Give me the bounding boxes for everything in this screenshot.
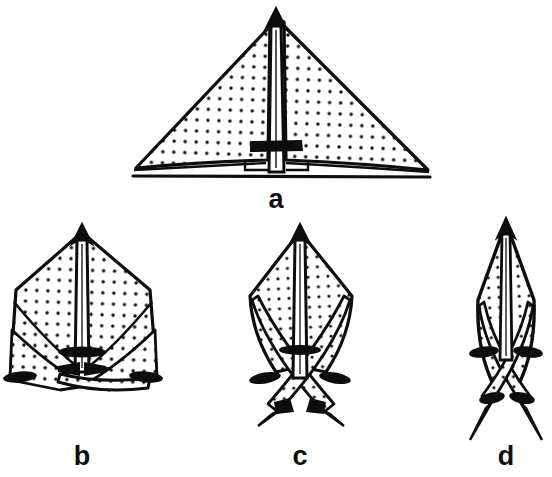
scientific-illustration-canvas: a b	[0, 0, 552, 477]
panel-d-label: d	[498, 441, 515, 471]
figure-container: a b	[0, 0, 552, 477]
panel-a-label: a	[268, 184, 284, 214]
panel-c-midrib-bar	[279, 345, 321, 355]
panel-c-label: c	[292, 441, 307, 471]
panel-b-midrib-bar	[58, 347, 106, 358]
panel-b-label: b	[74, 441, 91, 471]
panel-a-midrib-bar	[250, 140, 303, 152]
panel-a-basal-edge	[133, 176, 430, 177]
